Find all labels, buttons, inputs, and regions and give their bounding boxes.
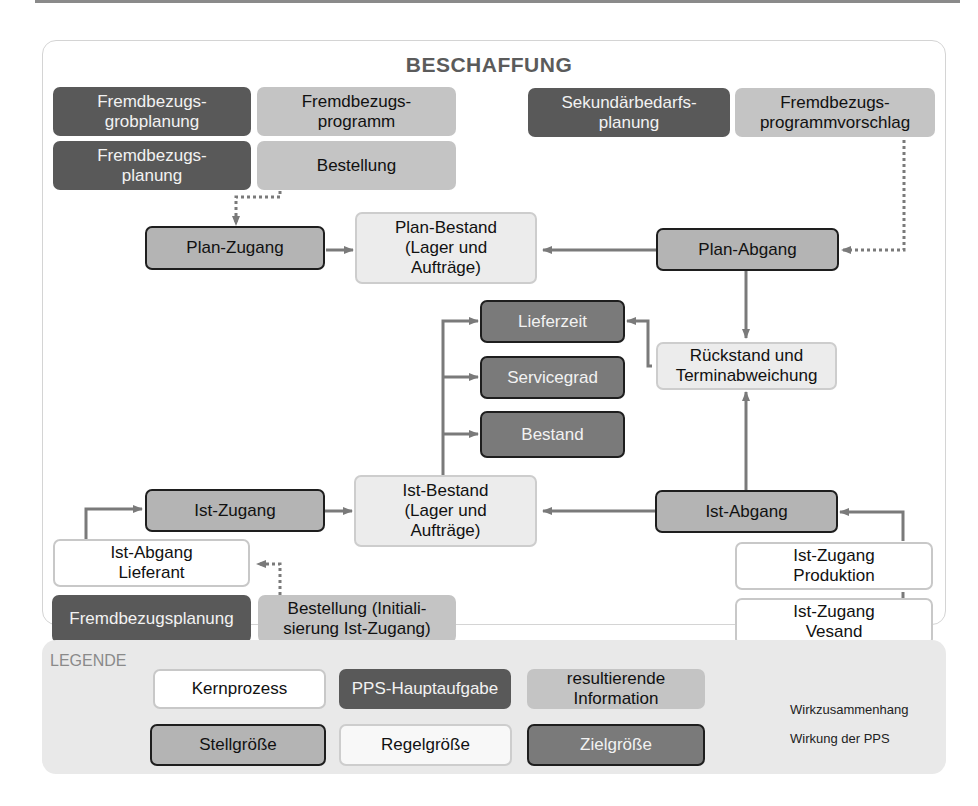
plan-bestand-box: Plan-Bestand (Lager und Aufträge) [355,212,537,284]
bestand-ziel-box: Bestand [480,411,625,458]
ist-zugang-box: Ist-Zugang [145,489,325,532]
legend-zielgroesse: Zielgröße [527,724,705,766]
legend-wirkzusammenhang: Wirkzusammenhang [790,702,909,717]
ist-abgang-box: Ist-Abgang [655,490,838,533]
ist-zugang-vesand-box: Ist-Zugang Vesand [735,598,933,646]
fremdbezugsprogrammvorschlag-box: Fremdbezugs- programmvorschlag [735,88,935,137]
ist-zugang-produktion-box: Ist-Zugang Produktion [735,542,933,590]
fremdbezugsgrobplanung-box: Fremdbezugs- grobplanung [53,87,251,136]
ist-bestand-box: Ist-Bestand (Lager und Aufträge) [354,475,537,547]
legend-wirkung-pps: Wirkung der PPS [790,731,890,746]
plan-zugang-box: Plan-Zugang [145,226,325,270]
plan-abgang-box: Plan-Abgang [656,228,839,271]
bestellung-initialisierung-box: Bestellung (Initiali- sierung Ist-Zugang… [258,595,456,643]
rueckstand-box: Rückstand und Terminabweichung [656,342,837,390]
legend-title: LEGENDE [50,652,126,670]
legend-kernprozess: Kernprozess [153,669,326,709]
fremdbezugsplanung-ist-box: Fremdbezugsplanung [52,595,251,643]
sekundaerbedarfsplanung-box: Sekundärbedarfs- planung [528,88,730,137]
bestellung-box: Bestellung [257,141,456,190]
legend-pps-hauptaufgabe: PPS-Hauptaufgabe [339,669,511,709]
legend-resultierende-information: resultierende Information [527,669,705,709]
servicegrad-box: Servicegrad [480,356,625,399]
legend-regelgroesse: Regelgröße [339,724,512,766]
lieferzeit-box: Lieferzeit [480,300,625,343]
fremdbezugsprogramm-box: Fremdbezugs- programm [257,87,456,136]
fremdbezugsplanung-box: Fremdbezugs- planung [53,141,251,190]
ist-abgang-lieferant-box: Ist-Abgang Lieferant [53,539,250,587]
legend-stellgroesse: Stellgröße [150,724,326,766]
